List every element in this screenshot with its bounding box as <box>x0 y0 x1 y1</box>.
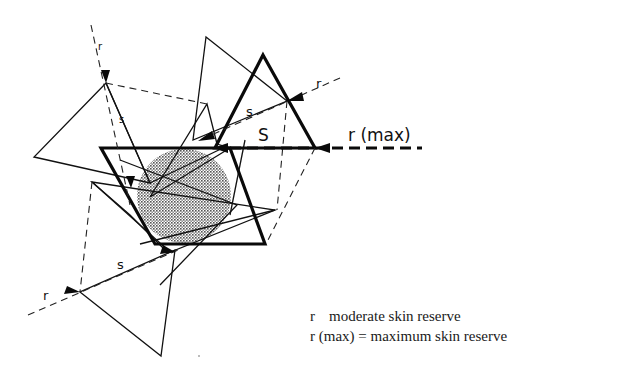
legend-text: maximum skin reserve <box>371 328 508 344</box>
speck <box>198 355 200 357</box>
thin-triangle-bottom <box>80 250 175 356</box>
label-s-top-right: s <box>246 104 253 119</box>
arrow-icon-top-right <box>287 92 304 101</box>
label-s-top-left: s <box>119 114 124 125</box>
legend-row-maximum: r (max) = maximum skin reserve <box>310 326 507 346</box>
label-S-main: S <box>258 125 269 145</box>
arrow-icon-left-lower <box>126 176 135 188</box>
dashed-line-right-slope <box>268 148 315 240</box>
arrow-icon-s-diag <box>198 131 215 141</box>
arrow-icon-bottom-r <box>64 286 80 294</box>
arrow-icon-rmax <box>315 143 330 153</box>
thin-triangle-top <box>193 37 287 140</box>
thin-triangle-left <box>34 83 150 183</box>
label-r-top-right: r <box>316 76 322 91</box>
legend-separator: = <box>358 328 366 344</box>
dashed-line-left-vert <box>80 182 92 292</box>
legend-symbol: r (max) <box>310 326 355 346</box>
dashed-line-top-connector <box>106 83 207 104</box>
legend-text: moderate skin reserve <box>329 308 461 324</box>
legend: rmoderate skin reserve r (max) = maximum… <box>310 306 507 346</box>
legend-symbol: r <box>310 306 315 326</box>
label-r-top-left: r <box>98 41 103 52</box>
label-r-bottom: r <box>43 288 49 303</box>
label-r-max: r (max) <box>348 125 411 145</box>
legend-row-moderate: rmoderate skin reserve <box>310 306 507 326</box>
dashed-line-right-vert <box>277 101 287 210</box>
label-s-bottom: s <box>117 257 124 272</box>
